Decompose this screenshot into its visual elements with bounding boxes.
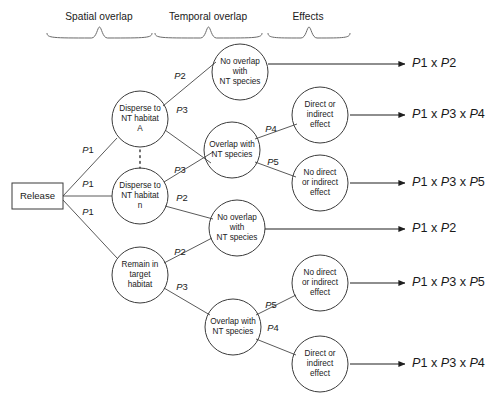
node-label-effect-direct-1: indirect [307,110,334,119]
node-label-effect-nodirect-2: No direct [304,268,337,277]
diagram-svg: Spatial overlapTemporal overlapEffects R… [0,0,497,401]
connector-disperse-n-to-overlap [164,152,213,182]
start-box: Release [12,183,63,209]
header-spatial: Spatial overlap [47,11,152,38]
node-label-effect-direct-1: effect [310,120,331,129]
node-effect-nodirect-2: No director indirecteffect [292,255,348,311]
probability-label-p1-top: P1 [82,144,93,155]
node-disperse-n: Disperse toNT habitatn [112,168,168,224]
node-label-effect-nodirect-2: effect [310,288,331,297]
header-label-temporal: Temporal overlap [169,11,247,22]
diagram-canvas: Spatial overlapTemporal overlapEffects R… [0,0,497,401]
outcome-label-outcome-2: P1 x P3 x P4 [412,107,485,121]
node-group: Disperse toNT habitatADisperse toNT habi… [112,44,348,392]
connector-disperse-n-to-no-overlap2 [165,206,213,219]
probability-label-p2-disperse-n: P2 [176,192,187,203]
node-label-remain-target: Remain in [122,260,159,269]
connector-remain-to-no-overlap2 [164,238,212,263]
probability-label-p2-disperse-a: P2 [174,70,185,81]
probability-label-p4-overlap2: P4 [267,322,278,333]
probability-label-p3-disperse-a: P3 [176,104,187,115]
header-label-spatial: Spatial overlap [65,11,133,22]
node-remain-target: Remain intargethabitat [112,247,168,303]
outcome-label-outcome-1: P1 x P2 [412,56,456,70]
node-label-remain-target: habitat [128,280,153,289]
node-label-effect-nodirect-1: or indirect [302,178,339,187]
node-effect-nodirect-1: No director indirecteffect [292,155,348,211]
header-group: Spatial overlapTemporal overlapEffects [47,11,350,38]
node-overlap-1: Overlap withNT species [204,122,260,178]
node-label-effect-direct-2: Direct or [305,349,336,358]
node-label-no-overlap-2: No overlap [217,213,257,222]
node-label-no-overlap-1: No overlap [220,57,260,66]
node-label-no-overlap-2: with [229,223,245,232]
node-no-overlap-2: No overlapwithNT species [209,200,265,256]
outcome-label-outcome-5: P1 x P3 x P5 [412,275,485,289]
node-label-disperse-n: NT habitat [121,191,159,200]
node-label-overlap-1: NT species [212,150,253,159]
node-label-no-overlap-1: NT species [220,77,261,86]
outcome-label-group: P1 x P2P1 x P3 x P4P1 x P3 x P5P1 x P2P1… [412,56,485,370]
start-box-group: Release [12,183,63,209]
node-label-effect-nodirect-1: effect [310,188,331,197]
probability-label-group: P1P1P1P2P3P3P2P2P3P4P5P5P4 [82,70,278,333]
node-label-effect-direct-2: effect [310,369,331,378]
node-label-effect-nodirect-2: or indirect [302,278,339,287]
probability-label-p2-remain: P2 [174,246,185,257]
connector-overlap2-to-direct [256,339,296,355]
probability-label-p1-mid: P1 [82,178,93,189]
brace-temporal [155,27,262,38]
probability-label-p4-overlap1: P4 [265,123,276,134]
node-label-effect-direct-1: Direct or [305,100,336,109]
node-disperse-a: Disperse toNT habitatA [112,91,168,147]
node-label-no-overlap-1: with [232,67,248,76]
node-label-overlap-2: NT species [213,327,254,336]
probability-label-p5-overlap1: P5 [267,156,278,167]
brace-effects [268,27,350,38]
node-overlap-2: Overlap withNT species [205,299,261,355]
connector-disperse-a-to-no-overlap [163,62,216,106]
node-label-overlap-2: Overlap with [210,317,256,326]
probability-label-p5-overlap2: P5 [265,299,276,310]
start-box-label: Release [20,190,55,201]
node-label-disperse-n: n [138,201,143,210]
probability-label-p3-remain: P3 [176,281,187,292]
outcome-label-outcome-6: P1 x P3 x P4 [412,356,485,370]
node-label-remain-target: target [130,270,152,279]
header-effects: Effects [268,11,350,38]
outcome-label-outcome-4: P1 x P2 [412,221,456,235]
node-effect-direct-2: Direct orindirecteffect [292,336,348,392]
node-no-overlap-1: No overlapwithNT species [212,44,268,100]
header-label-effects: Effects [293,11,324,22]
node-label-overlap-1: Overlap with [209,140,255,149]
probability-label-p3-disperse-n: P3 [174,164,185,175]
node-effect-direct-1: Direct orindirecteffect [292,87,348,143]
node-label-no-overlap-2: NT species [217,233,258,242]
probability-label-p1-bot: P1 [82,206,93,217]
brace-spatial [47,27,152,38]
node-label-disperse-a: A [137,124,143,133]
node-label-effect-direct-2: indirect [307,359,334,368]
node-label-disperse-a: Disperse to [119,104,161,113]
node-label-disperse-n: Disperse to [119,181,161,190]
outcome-label-outcome-3: P1 x P3 x P5 [412,175,485,189]
header-temporal: Temporal overlap [155,11,262,38]
node-label-disperse-a: NT habitat [121,114,159,123]
node-label-effect-nodirect-1: No direct [304,168,337,177]
